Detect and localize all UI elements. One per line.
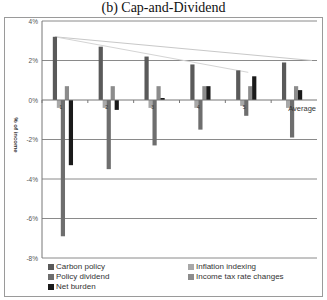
legend-item-inflation-indexing: Inflation indexing bbox=[188, 262, 256, 271]
plot-area: 4%2%0%-2%-4%-6%-8%% of income12345Averag… bbox=[0, 0, 327, 300]
bar bbox=[115, 100, 119, 110]
legend-swatch bbox=[48, 264, 54, 270]
y-tick-label: 0% bbox=[29, 97, 39, 104]
legend-item-income-tax-rate-changes: Income tax rate changes bbox=[188, 272, 284, 281]
legend-item-carbon-policy: Carbon policy bbox=[48, 262, 105, 271]
bar bbox=[107, 100, 111, 169]
bar bbox=[190, 64, 194, 100]
bar bbox=[111, 86, 115, 100]
legend-item-net-burden: Net burden bbox=[48, 282, 96, 291]
bar bbox=[156, 86, 160, 100]
y-tick-label: 4% bbox=[29, 18, 39, 25]
bar bbox=[99, 47, 103, 100]
trend-line bbox=[55, 37, 312, 61]
legend-swatch bbox=[188, 274, 194, 280]
bar bbox=[298, 90, 302, 100]
legend-swatch bbox=[48, 274, 54, 280]
y-tick-label: 2% bbox=[29, 57, 39, 64]
bar bbox=[294, 86, 298, 100]
legend-item-policy-dividend: Policy dividend bbox=[48, 272, 109, 281]
bar bbox=[248, 86, 252, 100]
bar bbox=[202, 86, 206, 100]
y-tick-label: -8% bbox=[26, 255, 38, 262]
bar bbox=[282, 62, 286, 100]
bar bbox=[252, 76, 256, 100]
bar bbox=[144, 57, 148, 100]
y-tick-label: -6% bbox=[26, 215, 38, 222]
legend-swatch bbox=[48, 284, 54, 290]
y-axis-title: % of income bbox=[13, 117, 19, 153]
y-tick-label: -4% bbox=[26, 176, 38, 183]
x-category-label: 4 bbox=[197, 104, 200, 110]
bar bbox=[69, 100, 73, 165]
x-category-label: 5 bbox=[243, 104, 246, 110]
x-category-label: 1 bbox=[60, 104, 63, 110]
x-category-label: 2 bbox=[105, 104, 108, 110]
bar bbox=[236, 70, 240, 100]
trend-line bbox=[55, 37, 248, 73]
x-category-label: Average bbox=[288, 104, 316, 113]
bar bbox=[53, 37, 57, 100]
bar bbox=[65, 86, 69, 100]
bar bbox=[61, 100, 65, 236]
bar bbox=[206, 86, 210, 100]
x-category-label: 3 bbox=[151, 104, 154, 110]
y-tick-label: -2% bbox=[26, 136, 38, 143]
legend-swatch bbox=[188, 264, 194, 270]
